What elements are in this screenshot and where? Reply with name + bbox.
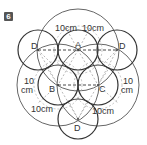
label-c: C [99,84,106,94]
measure-bottom-left: 10cm [31,104,53,114]
label-b: B [49,84,55,94]
label-d-bottom: D [74,123,81,133]
measure-bottom-right: 10cm [92,106,114,116]
measure-top-left: 10cm [55,23,77,33]
label-d-right: D [119,41,126,51]
measure-top-right: 10cm [82,23,104,33]
measure-right-2: cm [121,85,133,95]
circle-diagram: D A D B C D 10cm 10cm 10 cm 10 cm 10cm 1… [0,0,147,145]
measure-left-2: cm [21,85,33,95]
label-d-left: D [31,41,38,51]
label-a: A [75,40,81,50]
